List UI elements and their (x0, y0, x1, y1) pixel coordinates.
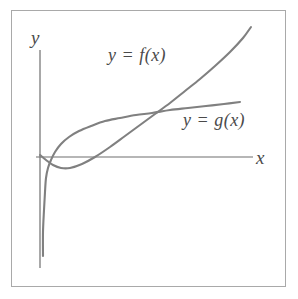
curve-label-g: y = g(x) (183, 111, 245, 129)
curve-label-f: y = f(x) (108, 46, 166, 64)
y-axis-label: y (31, 28, 39, 47)
figure-root: y x y = f(x) y = g(x) (0, 0, 298, 299)
x-axis-label: x (256, 148, 264, 167)
